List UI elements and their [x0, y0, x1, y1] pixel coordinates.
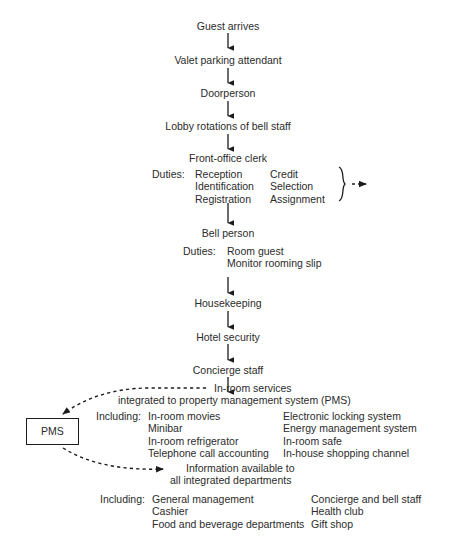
duty-item: Room guest [227, 245, 322, 257]
inroom-item: Electronic locking system [283, 410, 417, 422]
node-label: Guest arrives [197, 20, 259, 32]
including-text: Including: [100, 493, 145, 505]
pms-box: PMS [26, 418, 79, 445]
bell-duties-column-1: Room guest Monitor rooming slip [227, 245, 322, 270]
node-label: Doorperson [201, 87, 256, 99]
node-label: Housekeeping [194, 297, 261, 309]
node-housekeeping: Housekeeping [194, 297, 261, 309]
inroom-services-title: In-room services [214, 382, 292, 394]
inroom-item: Energy management system [283, 422, 417, 434]
information-including-label: Including: [100, 493, 145, 505]
node-label: Bell person [202, 227, 255, 239]
inroom-item: Minibar [148, 422, 269, 434]
information-item: Food and beverage departments [152, 518, 304, 530]
node-valet-parking-attendant: Valet parking attendant [174, 54, 281, 66]
brace-clerk-duties [339, 167, 345, 201]
information-text: all integrated departments [170, 474, 291, 486]
inroom-item: In-house shopping channel [283, 447, 417, 459]
pms-label: PMS [27, 425, 78, 437]
duties-text: Duties: [152, 168, 185, 180]
inroom-services-subtitle: integrated to property management system… [118, 394, 351, 406]
flowchart-diagram: Guest arrives Valet parking attendant Do… [0, 0, 449, 549]
information-text: Information available to [186, 462, 295, 474]
inroom-column-2: Electronic locking system Energy managem… [283, 410, 417, 460]
inroom-item: Telephone call accounting [148, 447, 269, 459]
duties-text: Duties: [183, 245, 216, 257]
node-guest-arrives: Guest arrives [197, 20, 259, 32]
node-front-office-clerk: Front-office clerk [189, 152, 267, 164]
inroom-line-2: integrated to property management system… [118, 394, 351, 406]
duty-item: Credit [270, 168, 325, 180]
node-doorperson: Doorperson [201, 87, 256, 99]
duty-item: Monitor rooming slip [227, 257, 322, 269]
node-label: Hotel security [196, 331, 260, 343]
node-label: Lobby rotations of bell staff [165, 120, 290, 132]
duty-item: Registration [195, 193, 254, 205]
inroom-item: In-room refrigerator [148, 435, 269, 447]
information-item: Concierge and bell staff [311, 493, 421, 505]
duty-item: Assignment [270, 193, 325, 205]
node-label: Valet parking attendant [174, 54, 281, 66]
information-available-line-2: all integrated departments [170, 474, 291, 486]
information-column-1: General management Cashier Food and beve… [152, 493, 304, 530]
duty-item: Selection [270, 180, 325, 192]
clerk-duties-label: Duties: [152, 168, 185, 180]
bell-duties-label: Duties: [183, 245, 216, 257]
inroom-column-1: In-room movies Minibar In-room refrigera… [148, 410, 269, 460]
duty-item: Reception [195, 168, 254, 180]
inroom-including-label: Including: [96, 410, 141, 422]
information-item: Gift shop [311, 518, 421, 530]
information-available-line-1: Information available to [186, 462, 295, 474]
inroom-item: In-room safe [283, 435, 417, 447]
node-hotel-security: Hotel security [196, 331, 260, 343]
information-item: Health club [311, 505, 421, 517]
node-bell-person: Bell person [202, 227, 255, 239]
inroom-line-1: In-room services [214, 382, 292, 394]
clerk-duties-column-2: Credit Selection Assignment [270, 168, 325, 205]
node-concierge-staff: Concierge staff [193, 364, 263, 376]
node-label: Concierge staff [193, 364, 263, 376]
information-column-2: Concierge and bell staff Health club Gif… [311, 493, 421, 530]
clerk-duties-column-1: Reception Identification Registration [195, 168, 254, 205]
information-item: Cashier [152, 505, 304, 517]
node-lobby-rotations: Lobby rotations of bell staff [165, 120, 290, 132]
including-text: Including: [96, 410, 141, 422]
information-item: General management [152, 493, 304, 505]
duty-item: Identification [195, 180, 254, 192]
inroom-item: In-room movies [148, 410, 269, 422]
node-label: Front-office clerk [189, 152, 267, 164]
